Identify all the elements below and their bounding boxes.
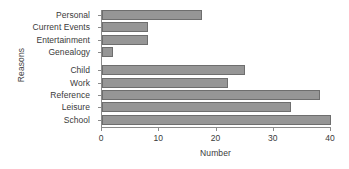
y-axis-tick <box>98 40 102 41</box>
category-label: Child <box>10 65 90 75</box>
category-label: Leisure <box>10 102 90 112</box>
category-label: Current Events <box>10 22 90 32</box>
x-axis-tick-label: 0 <box>86 133 116 144</box>
y-axis-tick <box>98 120 102 121</box>
y-axis-tick <box>98 27 102 28</box>
bar <box>102 90 320 100</box>
category-label: School <box>10 115 90 125</box>
plot-area <box>101 10 330 128</box>
x-axis-tick <box>273 127 274 131</box>
category-label: Genealogy <box>10 47 90 57</box>
category-label: Personal <box>10 10 90 20</box>
x-axis-title: Number <box>101 148 330 158</box>
bar <box>102 65 245 75</box>
x-axis-tick <box>330 127 331 131</box>
x-axis-tick <box>101 127 102 131</box>
bar <box>102 78 228 88</box>
x-axis-tick-label: 10 <box>143 133 173 144</box>
category-label-list: PersonalCurrent EventsEntertainmentGenea… <box>14 10 94 126</box>
bar <box>102 10 202 20</box>
x-axis-tick <box>158 127 159 131</box>
bar <box>102 35 148 45</box>
bar <box>102 22 148 32</box>
y-axis-tick <box>98 83 102 84</box>
category-label: Reference <box>10 90 90 100</box>
category-label: Entertainment <box>10 35 90 45</box>
y-axis-tick <box>98 15 102 16</box>
y-axis-tick <box>98 95 102 96</box>
bar-chart: Reasons PersonalCurrent EventsEntertainm… <box>0 0 349 169</box>
x-axis-tick-label: 40 <box>315 133 345 144</box>
x-axis-tick-label: 20 <box>201 133 231 144</box>
y-axis-tick <box>98 107 102 108</box>
x-axis-tick-label: 30 <box>258 133 288 144</box>
y-axis-tick <box>98 52 102 53</box>
x-axis-tick <box>216 127 217 131</box>
bar <box>102 102 291 112</box>
bar <box>102 47 113 57</box>
y-axis-tick <box>98 70 102 71</box>
category-label: Work <box>10 78 90 88</box>
bar <box>102 115 331 125</box>
